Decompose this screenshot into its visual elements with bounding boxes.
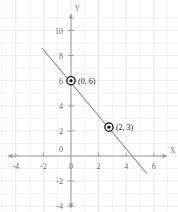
point-marker-dot — [107, 125, 110, 128]
x-axis-label: X — [170, 146, 176, 155]
y-tick-label: 2 — [59, 127, 63, 136]
origin-label: 0 — [59, 145, 63, 154]
x-tick-label: 0 — [69, 162, 73, 171]
y-axis-label: Y — [75, 4, 81, 13]
point-marker-dot — [69, 79, 72, 82]
y-tick-label: 8 — [59, 52, 63, 61]
x-tick-label: 6 — [152, 162, 156, 171]
chart-canvas: -4-20246-4-22468100 (0, 6)(2, 3) X Y — [0, 0, 178, 212]
coordinate-plane-chart: -4-20246-4-22468100 (0, 6)(2, 3) X Y — [0, 0, 178, 212]
y-tick-label: 6 — [59, 77, 63, 86]
y-tick-label: 4 — [59, 102, 63, 111]
x-tick-label: 4 — [124, 162, 128, 171]
x-tick-label: -4 — [12, 162, 19, 171]
y-tick-label: 10 — [55, 27, 63, 36]
x-tick-label: 2 — [97, 162, 101, 171]
y-tick-label: -2 — [56, 177, 63, 186]
y-tick-label: -4 — [56, 202, 63, 211]
point-label: (0, 6) — [78, 77, 96, 86]
x-tick-label: -2 — [40, 162, 47, 171]
point-label: (2, 3) — [116, 123, 134, 132]
